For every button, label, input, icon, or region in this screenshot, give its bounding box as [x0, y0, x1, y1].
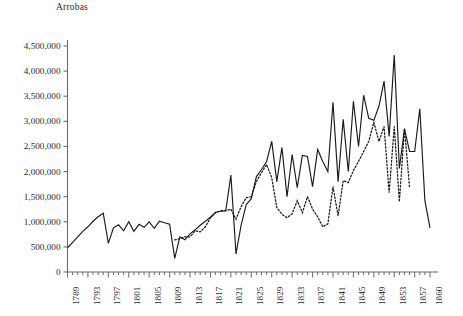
x-axis-tick-label: 1821 — [234, 287, 244, 305]
y-axis-tick-label: 1,000,000 — [0, 217, 61, 227]
y-axis-tick-label: 3,000,000 — [0, 116, 61, 126]
x-axis-tick-label: 1809 — [173, 287, 183, 305]
x-axis-tick-label: 1860 — [434, 287, 444, 305]
x-axis-tick-label: 1853 — [398, 287, 408, 305]
x-axis-tick-label: 1841 — [337, 287, 347, 305]
x-axis-tick-label: 1849 — [377, 287, 387, 305]
y-axis-tick-label: 4,500,000 — [0, 41, 61, 51]
x-axis-tick-label: 1789 — [71, 287, 81, 305]
sugar-production-chart: Arrobas 0500,0001,000,0001,500,0002,000,… — [0, 0, 463, 316]
x-axis-tick-label: 1801 — [132, 287, 142, 305]
y-axis-tick-label: 2,500,000 — [0, 141, 61, 151]
y-axis-tick-label: 4,000,000 — [0, 66, 61, 76]
y-axis-tick-label: 500,000 — [0, 242, 61, 252]
x-axis-tick-label: 1825 — [255, 287, 265, 305]
y-axis-tick-label: 0 — [0, 267, 61, 277]
x-axis-tick-label: 1857 — [418, 287, 428, 305]
x-axis-tick-label: 1817 — [214, 287, 224, 305]
x-axis-tick-label: 1833 — [296, 287, 306, 305]
x-axis-tick-label: 1829 — [275, 287, 285, 305]
x-axis-tick-label: 1805 — [153, 287, 163, 305]
y-axis-tick-label: 1,500,000 — [0, 192, 61, 202]
x-axis-tick-label: 1837 — [316, 287, 326, 305]
data-line-dotted — [175, 122, 410, 240]
y-axis-tick-label: 2,000,000 — [0, 167, 61, 177]
x-axis-tick-label: 1797 — [112, 287, 122, 305]
x-axis-tick-label: 1813 — [194, 287, 204, 305]
y-axis-tick-label: 3,500,000 — [0, 91, 61, 101]
x-axis-tick-label: 1845 — [357, 287, 367, 305]
plot-canvas — [0, 0, 463, 316]
x-axis-tick-label: 1793 — [92, 287, 102, 305]
data-line-solid — [68, 55, 431, 258]
